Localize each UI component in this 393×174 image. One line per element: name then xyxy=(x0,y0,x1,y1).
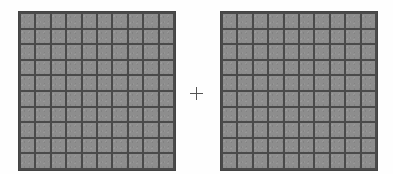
grid-cell xyxy=(315,76,328,90)
grid-cell xyxy=(238,123,251,137)
grid-cell xyxy=(331,108,344,122)
grid-cell xyxy=(331,45,344,59)
grid-cell xyxy=(238,30,251,44)
grid-cell xyxy=(52,45,65,59)
grid-cell xyxy=(129,76,142,90)
grid-cell xyxy=(160,14,173,28)
grid-cell xyxy=(346,45,359,59)
grid-cell xyxy=(254,154,267,168)
grid-cell xyxy=(160,76,173,90)
grid-cell xyxy=(52,108,65,122)
grid-cell xyxy=(315,45,328,59)
grid-cell xyxy=(160,45,173,59)
plus-sign-icon: + xyxy=(190,87,203,100)
grid-cell xyxy=(285,92,298,106)
grid-cell xyxy=(331,123,344,137)
grid-cell xyxy=(331,30,344,44)
grid-cell xyxy=(83,92,96,106)
grid-cell xyxy=(223,30,236,44)
grid-cell xyxy=(300,108,313,122)
grid-cell xyxy=(160,123,173,137)
grid-cell xyxy=(315,14,328,28)
grid-cell xyxy=(144,92,157,106)
grid-cell xyxy=(315,61,328,75)
grid-cell xyxy=(346,123,359,137)
grid-cell xyxy=(129,154,142,168)
grid-cell xyxy=(254,76,267,90)
grid-cell xyxy=(160,30,173,44)
grid-cell xyxy=(362,30,375,44)
grid-cell xyxy=(238,76,251,90)
grid-cell xyxy=(160,139,173,153)
grid-cell xyxy=(362,45,375,59)
grid-cell xyxy=(113,45,126,59)
grid-cell xyxy=(160,61,173,75)
grid-cell xyxy=(113,92,126,106)
grid-cell xyxy=(52,14,65,28)
grid-cell xyxy=(113,76,126,90)
grid-cell xyxy=(223,76,236,90)
grid-cell xyxy=(269,76,282,90)
grid-cell xyxy=(98,92,111,106)
grid-cell xyxy=(144,154,157,168)
grid-cell xyxy=(36,61,49,75)
grid-cell xyxy=(21,14,34,28)
grid-cell xyxy=(144,14,157,28)
plus-vertical-bar xyxy=(196,87,197,100)
grid-cell xyxy=(67,61,80,75)
grid-cell xyxy=(300,139,313,153)
grid-cell xyxy=(144,139,157,153)
grid-cell xyxy=(300,45,313,59)
grid-cell xyxy=(98,45,111,59)
grid-cell xyxy=(362,76,375,90)
grid-cell xyxy=(21,76,34,90)
grid-cell xyxy=(300,123,313,137)
grid-cell xyxy=(98,61,111,75)
grid-cell xyxy=(315,30,328,44)
grid-cell xyxy=(331,154,344,168)
grid-cell xyxy=(238,154,251,168)
grid-cell xyxy=(113,123,126,137)
grid-cell xyxy=(98,30,111,44)
grid-cell xyxy=(346,139,359,153)
grid-cell xyxy=(52,76,65,90)
grid-cell xyxy=(113,108,126,122)
grid-cell xyxy=(113,139,126,153)
grid-cell xyxy=(52,92,65,106)
grid-cell xyxy=(21,92,34,106)
grid-cell xyxy=(285,14,298,28)
grid-cell xyxy=(315,108,328,122)
grid-cell xyxy=(269,14,282,28)
grid-cell xyxy=(285,61,298,75)
grid-cell xyxy=(129,139,142,153)
grid-cell xyxy=(113,30,126,44)
grid-cell xyxy=(269,108,282,122)
plus-sign-label: + xyxy=(190,87,191,88)
grid-cell xyxy=(83,14,96,28)
grid-cell xyxy=(285,123,298,137)
grid-cell xyxy=(269,123,282,137)
grid-cell xyxy=(52,123,65,137)
grid-cell xyxy=(285,45,298,59)
grid-cell xyxy=(346,76,359,90)
grid-cell xyxy=(52,61,65,75)
grid-cell xyxy=(300,154,313,168)
grid-cell xyxy=(223,154,236,168)
grid-cell xyxy=(98,76,111,90)
grid-cell xyxy=(83,108,96,122)
grid-cell xyxy=(21,61,34,75)
grid-cell xyxy=(238,61,251,75)
grid-cell xyxy=(362,61,375,75)
grid-cell xyxy=(67,30,80,44)
grid-cell xyxy=(346,154,359,168)
grid-cell xyxy=(21,154,34,168)
grid-cell xyxy=(223,123,236,137)
grid-cell xyxy=(223,92,236,106)
grid-cell xyxy=(144,61,157,75)
grid-cell xyxy=(98,123,111,137)
grid-cell xyxy=(315,139,328,153)
grid-cell xyxy=(223,14,236,28)
grid-cell xyxy=(331,61,344,75)
grid-cell xyxy=(67,154,80,168)
grid-cell xyxy=(315,123,328,137)
